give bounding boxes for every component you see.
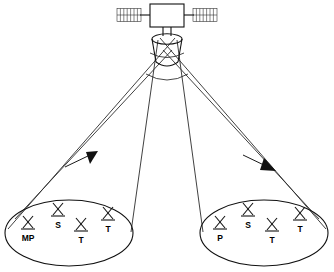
- solar-panel-right: [193, 9, 217, 22]
- beam-right-surface-line: [163, 50, 319, 219]
- station-label: T: [105, 224, 111, 234]
- footprint-right: P S T: [200, 200, 328, 266]
- satellite-beam-diagram: MP S T: [0, 0, 334, 272]
- station-right-p: P: [213, 216, 227, 243]
- beam-left: [8, 38, 175, 232]
- station-label: T: [78, 235, 84, 245]
- antenna-icon: [51, 203, 65, 216]
- station-left-s: S: [51, 203, 65, 230]
- antenna-icon: [21, 216, 35, 229]
- station-label: MP: [22, 233, 35, 243]
- antenna-icon: [293, 207, 307, 220]
- footprint-left: MP S T: [5, 200, 133, 266]
- station-left-t2: T: [101, 207, 115, 234]
- station-right-t2: T: [293, 207, 307, 234]
- satellite: [117, 4, 217, 27]
- arrow-right: [243, 155, 276, 171]
- station-label: T: [297, 224, 303, 234]
- antenna-icon: [74, 218, 88, 231]
- station-label: T: [269, 235, 275, 245]
- antenna-icon: [265, 218, 279, 231]
- station-right-s: S: [241, 203, 255, 230]
- station-label: S: [55, 220, 61, 230]
- beam-right: [160, 38, 326, 232]
- antenna-icon: [241, 203, 255, 216]
- arrow-left-head: [86, 151, 98, 164]
- station-right-t1: T: [265, 218, 279, 245]
- station-left-mp: MP: [21, 216, 35, 243]
- station-label: S: [245, 220, 251, 230]
- solar-panel-left: [117, 9, 141, 22]
- antenna-icon: [213, 216, 227, 229]
- station-label: P: [217, 233, 223, 243]
- horn-top-ellipse: [152, 34, 182, 44]
- beam-right-outer-edge: [160, 38, 326, 229]
- satellite-body: [150, 4, 184, 27]
- arrow-right-head: [260, 158, 276, 171]
- beam-left-outer-edge: [8, 38, 175, 229]
- arrow-left: [65, 151, 98, 167]
- station-left-t1: T: [74, 218, 88, 245]
- diagram-canvas: MP S T: [0, 0, 334, 272]
